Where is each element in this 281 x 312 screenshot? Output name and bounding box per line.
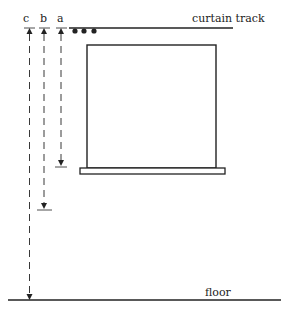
arrow-down-icon [41, 203, 47, 209]
curtain-ring-icon [81, 28, 86, 33]
measurement-arrow-c [24, 28, 35, 300]
arrow-up-icon [58, 28, 64, 34]
measurement-arrow-b [37, 28, 52, 210]
curtain-ring-icon [72, 28, 77, 33]
arrow-down-icon [27, 294, 33, 300]
window-frame [87, 45, 216, 168]
floor-label: floor [205, 286, 232, 299]
arrow-up-icon [27, 28, 33, 34]
curtain-track-label: curtain track [192, 12, 265, 25]
curtain-measurement-diagram: curtain track c b a floor [0, 0, 281, 312]
measurement-label-b: b [40, 12, 47, 25]
measurement-arrow-a [55, 28, 67, 167]
arrow-up-icon [41, 28, 47, 34]
window-sill [80, 168, 225, 174]
measurement-label-a: a [57, 12, 64, 25]
curtain-track [69, 28, 233, 34]
window [80, 45, 225, 174]
arrow-down-icon [58, 160, 64, 166]
curtain-ring-icon [91, 28, 96, 33]
measurement-label-c: c [23, 12, 29, 25]
